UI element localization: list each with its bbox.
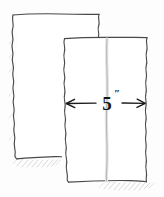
front-sheet-shadow <box>99 182 154 190</box>
dimension-unit-label: ″ <box>114 87 120 99</box>
figure-canvas: 5 ″ <box>0 0 164 197</box>
dimension-value-label: 5 <box>102 93 112 114</box>
back-sheet-shadow <box>13 158 60 167</box>
back-sheet-left-torn-edge <box>12 15 17 159</box>
back-sheet-right-torn-edge <box>98 14 99 37</box>
torn-paper-diagram: 5 ″ <box>0 0 164 197</box>
